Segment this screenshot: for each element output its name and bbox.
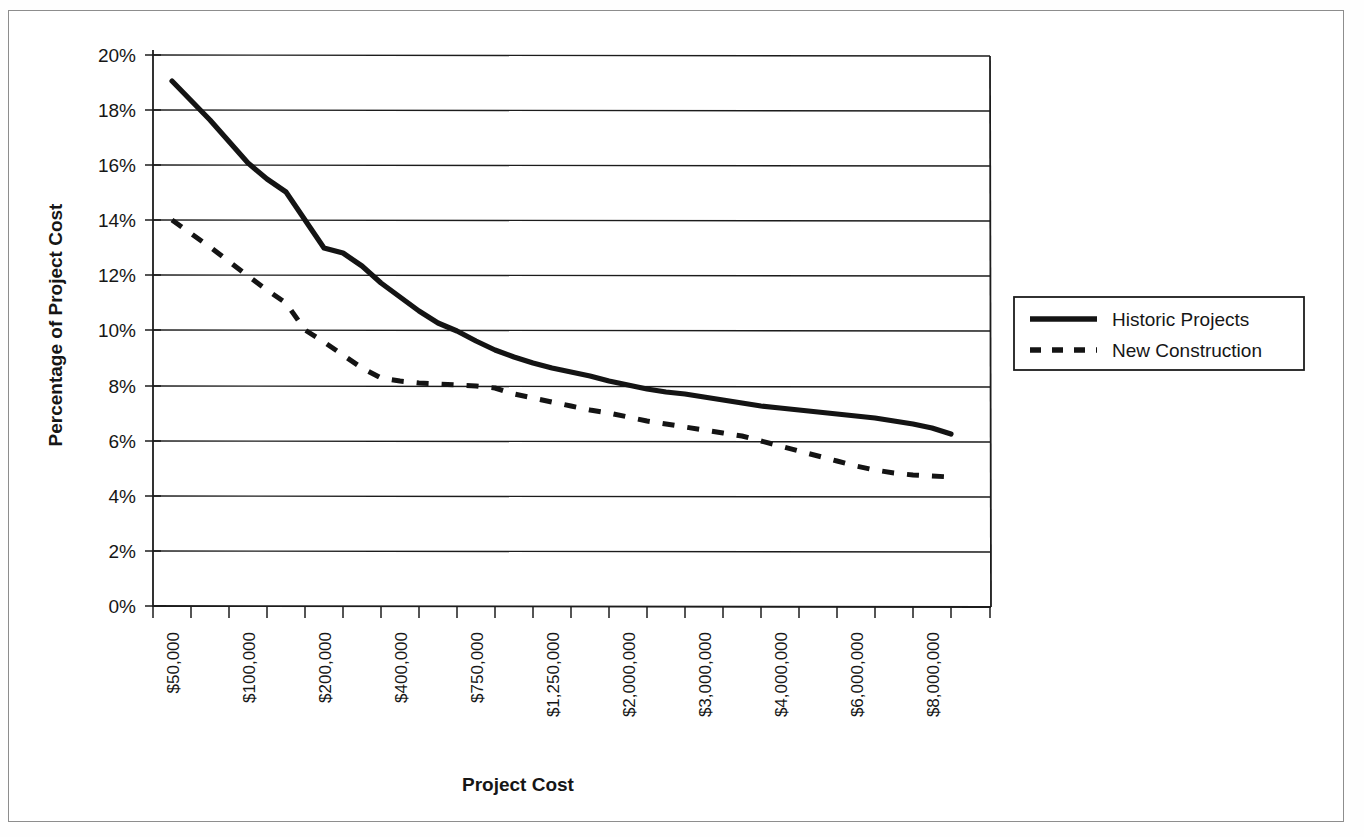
chart-figure: Percentage of Project Cost [0,0,1364,837]
gridline-14 [153,220,990,221]
x-axis-line [153,606,991,607]
gridline-10 [153,330,990,331]
gridline-20 [153,55,990,56]
x-tick-label-1: $100,000 [240,632,259,703]
y-tick-label-8: 8% [109,376,137,397]
y-tick-label-6: 6% [109,431,137,452]
gridline-6 [153,441,990,442]
legend-label-new-construction: New Construction [1112,340,1262,361]
gridline-4 [153,496,990,497]
x-tick-label-2: $200,000 [316,632,335,703]
y-axis-title: Percentage of Project Cost [45,203,66,447]
y-tick-label-0: 0% [109,596,137,617]
y-tick-label-18: 18% [98,100,136,121]
x-axis-title: Project Cost [462,774,575,795]
legend: Historic Projects New Construction [1014,297,1304,370]
chart-page: Percentage of Project Cost [0,0,1364,837]
x-tick-label-4: $750,000 [468,632,487,703]
y-tick-label-14: 14% [98,210,136,231]
x-axis-title-text: Project Cost [462,774,575,795]
x-axis-ticks [153,606,990,618]
y-tick-label-12: 12% [98,265,136,286]
x-tick-label-3: $400,000 [392,632,411,703]
series-historic-projects [172,81,951,434]
data-series-group [172,81,951,477]
gridline-12 [153,275,990,276]
y-tick-label-16: 16% [98,155,136,176]
axes [153,50,991,607]
y-tick-label-2: 2% [109,541,137,562]
x-tick-label-5: $1,250,000 [544,632,563,717]
x-tick-label-7: $3,000,000 [696,632,715,717]
gridline-2 [153,551,990,552]
series-new-construction [172,220,951,477]
gridline-8 [153,386,990,387]
gridline-18 [153,110,990,111]
y-axis-ticks: 20% 18% 16% 14% 12% 10% 8% 6% 4% 2% 0% [98,45,161,617]
y-axis-title-text: Percentage of Project Cost [45,203,66,447]
x-axis-tick-labels: $50,000 $100,000 $200,000 $400,000 $750,… [164,632,943,717]
x-tick-label-9: $6,000,000 [848,632,867,717]
plot-right-edge [990,56,991,607]
y-tick-label-10: 10% [98,320,136,341]
x-tick-label-0: $50,000 [164,632,183,693]
y-tick-label-20: 20% [98,45,136,66]
y-tick-label-4: 4% [109,486,137,507]
x-tick-label-6: $2,000,000 [620,632,639,717]
gridline-16 [153,165,990,166]
x-tick-label-10: $8,000,000 [924,632,943,717]
x-tick-label-8: $4,000,000 [772,632,791,717]
legend-label-historic-projects: Historic Projects [1112,309,1249,330]
chart-svg: Percentage of Project Cost [0,0,1364,837]
gridlines [153,55,990,552]
